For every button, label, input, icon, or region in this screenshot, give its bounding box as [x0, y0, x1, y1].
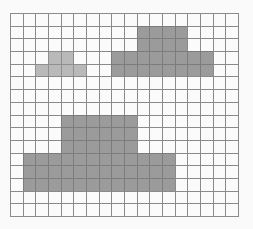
grid-cell-filled-dark[interactable]: [124, 178, 137, 191]
grid-cell-empty[interactable]: [99, 76, 112, 89]
grid-cell-filled-dark[interactable]: [137, 153, 150, 166]
grid-cell-empty[interactable]: [225, 127, 238, 140]
grid-cell-filled-light[interactable]: [61, 51, 74, 64]
grid-cell-filled-dark[interactable]: [61, 153, 74, 166]
grid-cell-filled-dark[interactable]: [200, 51, 213, 64]
grid-cell-empty[interactable]: [10, 38, 23, 51]
grid-cell-empty[interactable]: [86, 191, 99, 204]
grid-cell-filled-dark[interactable]: [162, 38, 175, 51]
grid-cell-filled-dark[interactable]: [162, 26, 175, 39]
grid-cell-filled-dark[interactable]: [35, 178, 48, 191]
grid-cell-empty[interactable]: [137, 191, 150, 204]
grid-cell-empty[interactable]: [175, 153, 188, 166]
grid-cell-empty[interactable]: [99, 26, 112, 39]
grid-cell-empty[interactable]: [200, 89, 213, 102]
grid-cell-filled-dark[interactable]: [111, 153, 124, 166]
grid-cell-filled-dark[interactable]: [162, 51, 175, 64]
grid-cell-empty[interactable]: [111, 203, 124, 216]
grid-cell-empty[interactable]: [124, 26, 137, 39]
grid-cell-empty[interactable]: [35, 191, 48, 204]
grid-cell-filled-dark[interactable]: [137, 178, 150, 191]
grid-cell-empty[interactable]: [111, 191, 124, 204]
grid-cell-filled-dark[interactable]: [86, 178, 99, 191]
grid-cell-empty[interactable]: [225, 102, 238, 115]
grid-cell-empty[interactable]: [111, 89, 124, 102]
grid-cell-filled-dark[interactable]: [99, 140, 112, 153]
grid-cell-empty[interactable]: [162, 89, 175, 102]
grid-cell-filled-dark[interactable]: [149, 165, 162, 178]
grid-cell-empty[interactable]: [99, 102, 112, 115]
grid-cell-empty[interactable]: [35, 140, 48, 153]
grid-cell-filled-dark[interactable]: [175, 51, 188, 64]
grid-cell-empty[interactable]: [111, 76, 124, 89]
grid-cell-empty[interactable]: [137, 140, 150, 153]
grid-cell-empty[interactable]: [162, 76, 175, 89]
grid-cell-empty[interactable]: [86, 26, 99, 39]
grid-cell-empty[interactable]: [10, 191, 23, 204]
grid-cell-filled-dark[interactable]: [175, 38, 188, 51]
grid-cell-filled-light[interactable]: [48, 51, 61, 64]
grid-cell-empty[interactable]: [187, 165, 200, 178]
grid-cell-empty[interactable]: [86, 102, 99, 115]
grid-cell-empty[interactable]: [10, 178, 23, 191]
grid-cell-empty[interactable]: [10, 127, 23, 140]
grid-cell-empty[interactable]: [213, 89, 226, 102]
grid-cell-empty[interactable]: [225, 26, 238, 39]
grid-cell-empty[interactable]: [10, 102, 23, 115]
grid-cell-empty[interactable]: [137, 89, 150, 102]
grid-cell-filled-dark[interactable]: [23, 178, 36, 191]
grid-cell-empty[interactable]: [10, 165, 23, 178]
grid-cell-empty[interactable]: [23, 191, 36, 204]
grid-cell-filled-dark[interactable]: [86, 127, 99, 140]
grid-cell-empty[interactable]: [200, 38, 213, 51]
grid-cell-empty[interactable]: [200, 102, 213, 115]
grid-cell-empty[interactable]: [61, 203, 74, 216]
grid-cell-empty[interactable]: [213, 26, 226, 39]
grid-cell-filled-light[interactable]: [61, 64, 74, 77]
grid-cell-empty[interactable]: [48, 102, 61, 115]
grid-cell-empty[interactable]: [35, 26, 48, 39]
grid-cell-empty[interactable]: [187, 153, 200, 166]
grid-cell-empty[interactable]: [213, 64, 226, 77]
grid-cell-empty[interactable]: [225, 153, 238, 166]
grid-cell-filled-light[interactable]: [48, 64, 61, 77]
grid-cell-filled-dark[interactable]: [124, 115, 137, 128]
grid-cell-empty[interactable]: [23, 64, 36, 77]
grid-cell-empty[interactable]: [99, 38, 112, 51]
grid-cell-empty[interactable]: [73, 191, 86, 204]
grid-cell-filled-dark[interactable]: [137, 51, 150, 64]
grid-cell-filled-dark[interactable]: [111, 127, 124, 140]
grid-cell-empty[interactable]: [10, 13, 23, 26]
grid-cell-empty[interactable]: [187, 38, 200, 51]
grid-cell-empty[interactable]: [200, 115, 213, 128]
grid-cell-empty[interactable]: [35, 115, 48, 128]
grid-cell-empty[interactable]: [225, 178, 238, 191]
grid-cell-empty[interactable]: [175, 76, 188, 89]
grid-cell-empty[interactable]: [48, 38, 61, 51]
grid-cell-empty[interactable]: [200, 165, 213, 178]
grid-cell-empty[interactable]: [162, 115, 175, 128]
grid-cell-empty[interactable]: [23, 203, 36, 216]
grid-cell-filled-dark[interactable]: [149, 26, 162, 39]
grid-cell-empty[interactable]: [23, 115, 36, 128]
grid-cell-filled-dark[interactable]: [111, 64, 124, 77]
grid-cell-filled-dark[interactable]: [73, 140, 86, 153]
grid-cell-empty[interactable]: [86, 203, 99, 216]
grid-cell-empty[interactable]: [213, 153, 226, 166]
grid-cell-empty[interactable]: [73, 102, 86, 115]
grid-cell-empty[interactable]: [124, 102, 137, 115]
grid-cell-empty[interactable]: [162, 13, 175, 26]
grid-cell-empty[interactable]: [225, 38, 238, 51]
grid-cell-empty[interactable]: [10, 26, 23, 39]
grid-cell-empty[interactable]: [213, 76, 226, 89]
grid-cell-empty[interactable]: [124, 191, 137, 204]
grid-cell-empty[interactable]: [137, 203, 150, 216]
grid-cell-empty[interactable]: [99, 191, 112, 204]
grid-cell-empty[interactable]: [10, 64, 23, 77]
grid-cell-filled-dark[interactable]: [137, 38, 150, 51]
grid-cell-filled-dark[interactable]: [48, 153, 61, 166]
grid-cell-empty[interactable]: [111, 102, 124, 115]
grid-cell-filled-dark[interactable]: [111, 51, 124, 64]
grid-cell-filled-dark[interactable]: [86, 165, 99, 178]
grid-cell-empty[interactable]: [162, 127, 175, 140]
